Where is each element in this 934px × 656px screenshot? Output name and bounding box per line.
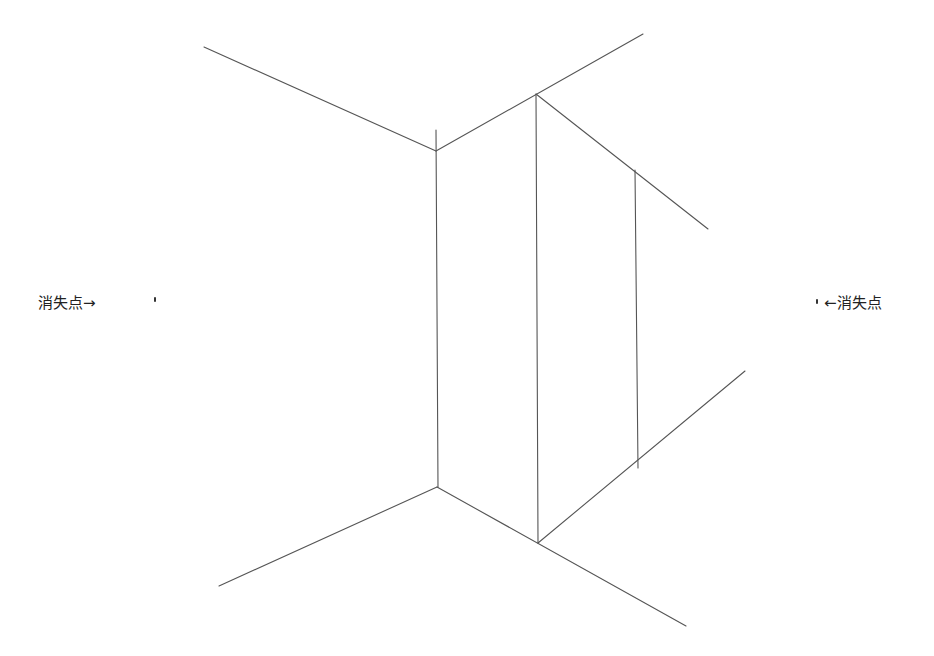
vanishing-point-left [154, 297, 156, 302]
ceiling-right-edge-line [436, 34, 643, 151]
vanishing-point-right [816, 299, 818, 304]
panel-front-vertical-line [536, 94, 538, 543]
panel-bottom-edge-line [538, 371, 745, 543]
floor-right-edge-line [437, 487, 686, 626]
ceiling-left-edge-line [204, 47, 436, 151]
panel-top-edge-line [536, 94, 708, 229]
vanishing-point-label-right: ←消失点 [824, 291, 882, 312]
floor-left-edge-line [219, 487, 437, 586]
vanishing-point-label-left: 消失点→ [38, 291, 96, 312]
perspective-drawing [0, 0, 934, 656]
corner-vertical-line [436, 130, 438, 487]
panel-back-vertical-line [635, 170, 638, 468]
